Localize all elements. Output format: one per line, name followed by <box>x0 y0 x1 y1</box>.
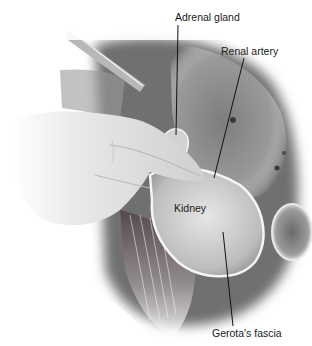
vena-cava <box>272 204 312 260</box>
fade-top <box>0 0 312 40</box>
label-kidney: Kidney <box>174 202 206 214</box>
label-adrenal-gland: Adrenal gland <box>175 11 240 23</box>
liver-spot <box>275 166 280 171</box>
liver-spot <box>230 117 236 123</box>
liver-spot <box>282 151 286 155</box>
kidney-surgery-illustration: Adrenal gland Renal artery Kidney Gerota… <box>0 0 312 346</box>
label-gerotas-fascia: Gerota's fascia <box>212 327 282 339</box>
label-renal-artery: Renal artery <box>221 45 278 57</box>
